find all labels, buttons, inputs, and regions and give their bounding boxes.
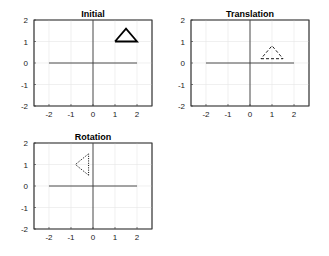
y-tick-label: 1	[24, 161, 29, 170]
figure: Initial -2-1012-2-1012 Translation -2-10…	[0, 0, 329, 256]
y-tick-label: 1	[181, 38, 186, 47]
x-tick-label: 1	[270, 110, 275, 119]
x-tick-label: 2	[135, 110, 140, 119]
subplot-title: Rotation	[75, 132, 112, 142]
y-tick-label: 2	[181, 16, 186, 25]
subplot-translation: Translation -2-1012-2-1012	[178, 9, 309, 119]
x-tick-label: -1	[224, 110, 232, 119]
y-tick-label: -1	[178, 81, 186, 90]
x-tick-label: -2	[45, 233, 53, 242]
y-tick-label: 0	[24, 59, 29, 68]
subplot-title: Initial	[81, 9, 105, 19]
x-tick-label: 2	[135, 233, 140, 242]
y-tick-label: 1	[24, 38, 29, 47]
subplot-title: Translation	[226, 9, 274, 19]
y-tick-label: 0	[24, 182, 29, 191]
y-tick-label: 0	[181, 59, 186, 68]
x-tick-label: -2	[45, 110, 53, 119]
x-tick-label: -1	[67, 110, 75, 119]
y-tick-label: 2	[24, 16, 29, 25]
subplot-initial: Initial -2-1012-2-1012	[21, 9, 152, 119]
y-tick-label: -1	[21, 204, 29, 213]
x-tick-label: -2	[202, 110, 210, 119]
x-tick-label: 1	[113, 233, 118, 242]
y-tick-label: -1	[21, 81, 29, 90]
x-tick-label: -1	[67, 233, 75, 242]
x-tick-label: 0	[91, 110, 96, 119]
y-tick-label: 2	[24, 139, 29, 148]
y-tick-label: -2	[21, 225, 29, 234]
x-tick-label: 0	[248, 110, 253, 119]
x-tick-label: 2	[292, 110, 297, 119]
x-tick-label: 1	[113, 110, 118, 119]
subplot-rotation: Rotation -2-1012-2-1012	[21, 132, 152, 242]
y-tick-label: -2	[21, 102, 29, 111]
x-tick-label: 0	[91, 233, 96, 242]
y-tick-label: -2	[178, 102, 186, 111]
